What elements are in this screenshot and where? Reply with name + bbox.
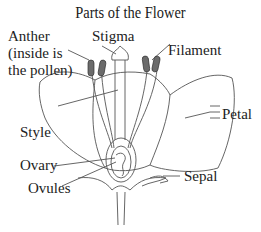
stem-outline [117, 192, 125, 225]
label-anther-note-2: the pollen) [8, 62, 73, 79]
label-ovary: Ovary [20, 157, 58, 174]
flower-diagram: Parts of the Flower [0, 0, 261, 232]
left-petal-outline [39, 72, 105, 168]
label-style: Style [20, 124, 51, 141]
anthers [88, 56, 161, 77]
left-sepal [78, 178, 166, 191]
label-sepal: Sepal [184, 168, 217, 185]
label-petal: Petal [222, 106, 252, 123]
label-anther-note-1: (inside is [8, 45, 63, 62]
label-stigma: Stigma [92, 28, 135, 45]
label-filament: Filament [168, 42, 221, 59]
label-ovules: Ovules [28, 180, 71, 197]
label-anther: Anther [8, 28, 50, 45]
ovary-shape [106, 138, 136, 182]
right-petal-outline [150, 75, 234, 171]
